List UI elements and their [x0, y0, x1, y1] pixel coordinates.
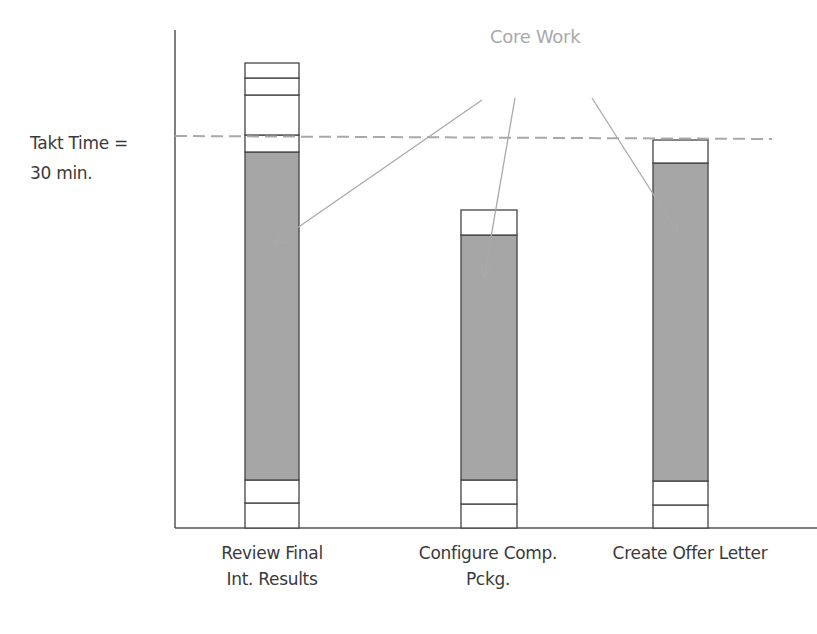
category-label-configure: Configure Comp. Pckg.	[398, 540, 578, 592]
stacked-bar-chart	[0, 0, 817, 634]
bar-create-offer-letter	[653, 140, 708, 528]
bar-configure-comp-pckg	[461, 210, 517, 528]
takt-label-line1: Takt Time =	[30, 128, 128, 158]
category-label-line: Pckg.	[398, 566, 578, 592]
chart-canvas: Takt Time = 30 min. Core Work Review Fin…	[0, 0, 817, 634]
core-work-annotation: Core Work	[490, 26, 580, 47]
category-label-line: Review Final	[192, 540, 352, 566]
takt-time-label: Takt Time = 30 min.	[30, 128, 128, 188]
category-label-line: Int. Results	[192, 566, 352, 592]
category-label-create: Create Offer Letter	[590, 540, 790, 566]
category-label-line: Configure Comp.	[398, 540, 578, 566]
category-label-line: Create Offer Letter	[590, 540, 790, 566]
category-label-review: Review Final Int. Results	[192, 540, 352, 592]
takt-label-line2: 30 min.	[30, 158, 128, 188]
core-work-arrow-1	[274, 100, 482, 244]
bar-review-final-int-results	[245, 63, 299, 528]
